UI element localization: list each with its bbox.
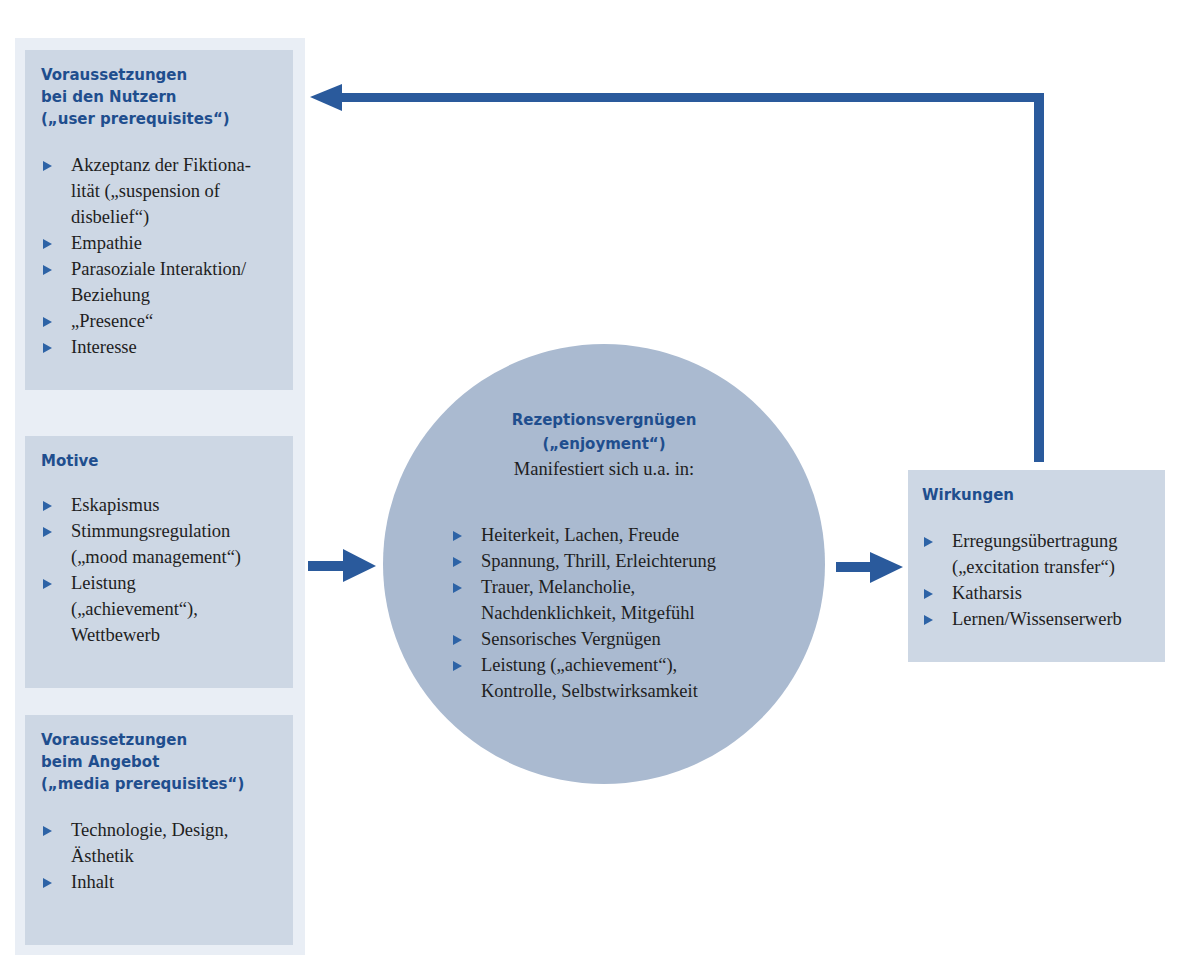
list-item-text: Empathie [71, 233, 142, 253]
list-item-text: Leistung („achievement“), Kontrolle, Sel… [481, 655, 698, 701]
triangle-bullet-icon [43, 878, 52, 888]
list-item-text: Heiterkeit, Lachen, Freude [481, 525, 679, 545]
effects-title: Wirkungen [922, 484, 1151, 506]
list-item-text: Interesse [71, 337, 137, 357]
list-item: Erregungsübertragung („excitation transf… [922, 528, 1151, 580]
enjoyment-circle: Rezeptionsvergnügen („enjoyment“) Manife… [383, 344, 825, 784]
list-item: Heiterkeit, Lachen, Freude [451, 522, 716, 548]
motives-list: Eskapismus Stimmungsregulation („mood ma… [41, 492, 277, 648]
user-prerequisites-box: Voraussetzungen bei den Nutzern („user p… [25, 50, 293, 390]
list-item-text: Inhalt [71, 872, 114, 892]
list-item: Leistung („achievement“), Kontrolle, Sel… [451, 652, 716, 704]
triangle-bullet-icon [43, 527, 52, 537]
list-item: Interesse [41, 334, 277, 360]
list-item: Stimmungsregulation („mood management“) [41, 518, 277, 570]
enjoyment-subtitle: Manifestiert sich u.a. in: [383, 456, 825, 482]
list-item: Parasoziale Interaktion/ Beziehung [41, 256, 277, 308]
motives-box: Motive Eskapismus Stimmungsregulation („… [25, 436, 293, 688]
enjoyment-title: Rezeptionsvergnügen [383, 408, 825, 432]
triangle-bullet-icon [43, 265, 52, 275]
triangle-bullet-icon [43, 317, 52, 327]
motives-title: Motive [41, 450, 277, 472]
list-item-text: Technologie, Design, Ästhetik [71, 820, 228, 866]
list-item-text: Katharsis [952, 583, 1022, 603]
list-item-text: Leistung („achievement“), Wettbewerb [71, 573, 198, 645]
triangle-bullet-icon [453, 583, 462, 593]
list-item: Leistung („achievement“), Wettbewerb [41, 570, 277, 648]
list-item-text: Parasoziale Interaktion/ Beziehung [71, 259, 246, 305]
triangle-bullet-icon [43, 161, 52, 171]
user-prerequisites-title: Voraussetzungen bei den Nutzern („user p… [41, 64, 277, 130]
list-item: Akzeptanz der Fiktiona- lität („suspensi… [41, 152, 277, 230]
triangle-bullet-icon [43, 343, 52, 353]
list-item: Katharsis [922, 580, 1151, 606]
list-item: Technologie, Design, Ästhetik [41, 817, 277, 869]
list-item-text: Sensorisches Vergnügen [481, 629, 661, 649]
arrow-center-to-effects-icon [836, 552, 903, 583]
list-item-text: Trauer, Melancholie, Nachdenklichkeit, M… [481, 577, 695, 623]
list-item-text: Lernen/Wissenserwerb [952, 609, 1122, 629]
list-item-text: Stimmungsregulation („mood management“) [71, 521, 241, 567]
triangle-bullet-icon [453, 635, 462, 645]
triangle-bullet-icon [453, 557, 462, 567]
triangle-bullet-icon [43, 239, 52, 249]
triangle-bullet-icon [43, 501, 52, 511]
list-item-text: Eskapismus [71, 495, 159, 515]
enjoyment-title-english: („enjoyment“) [383, 432, 825, 456]
list-item-text: Akzeptanz der Fiktiona- lität („suspensi… [71, 155, 251, 227]
list-item: Eskapismus [41, 492, 277, 518]
triangle-bullet-icon [43, 579, 52, 589]
list-item: Inhalt [41, 869, 277, 895]
list-item: Spannung, Thrill, Erleichterung [451, 548, 716, 574]
list-item-text: „Presence“ [71, 311, 153, 331]
list-item: Empathie [41, 230, 277, 256]
list-item-text: Spannung, Thrill, Erleichterung [481, 551, 716, 571]
list-item: Sensorisches Vergnügen [451, 626, 716, 652]
triangle-bullet-icon [453, 661, 462, 671]
list-item: Trauer, Melancholie, Nachdenklichkeit, M… [451, 574, 716, 626]
list-item: Lernen/Wissenserwerb [922, 606, 1151, 632]
list-item: „Presence“ [41, 308, 277, 334]
enjoyment-list: Heiterkeit, Lachen, Freude Spannung, Thr… [451, 522, 716, 704]
effects-box: Wirkungen Erregungsübertragung („excitat… [908, 470, 1165, 662]
triangle-bullet-icon [43, 826, 52, 836]
list-item-text: Erregungsübertragung („excitation transf… [952, 531, 1117, 577]
media-prerequisites-list: Technologie, Design, Ästhetik Inhalt [41, 817, 277, 895]
triangle-bullet-icon [924, 615, 933, 625]
arrow-left-to-center-icon [308, 549, 376, 582]
triangle-bullet-icon [453, 531, 462, 541]
triangle-bullet-icon [924, 589, 933, 599]
enjoyment-heading: Rezeptionsvergnügen („enjoyment“) Manife… [383, 408, 825, 482]
effects-list: Erregungsübertragung („excitation transf… [922, 528, 1151, 632]
triangle-bullet-icon [924, 537, 933, 547]
user-prerequisites-list: Akzeptanz der Fiktiona- lität („suspensi… [41, 152, 277, 360]
media-prerequisites-title: Voraussetzungen beim Angebot („media pre… [41, 729, 277, 795]
media-prerequisites-box: Voraussetzungen beim Angebot („media pre… [25, 715, 293, 945]
